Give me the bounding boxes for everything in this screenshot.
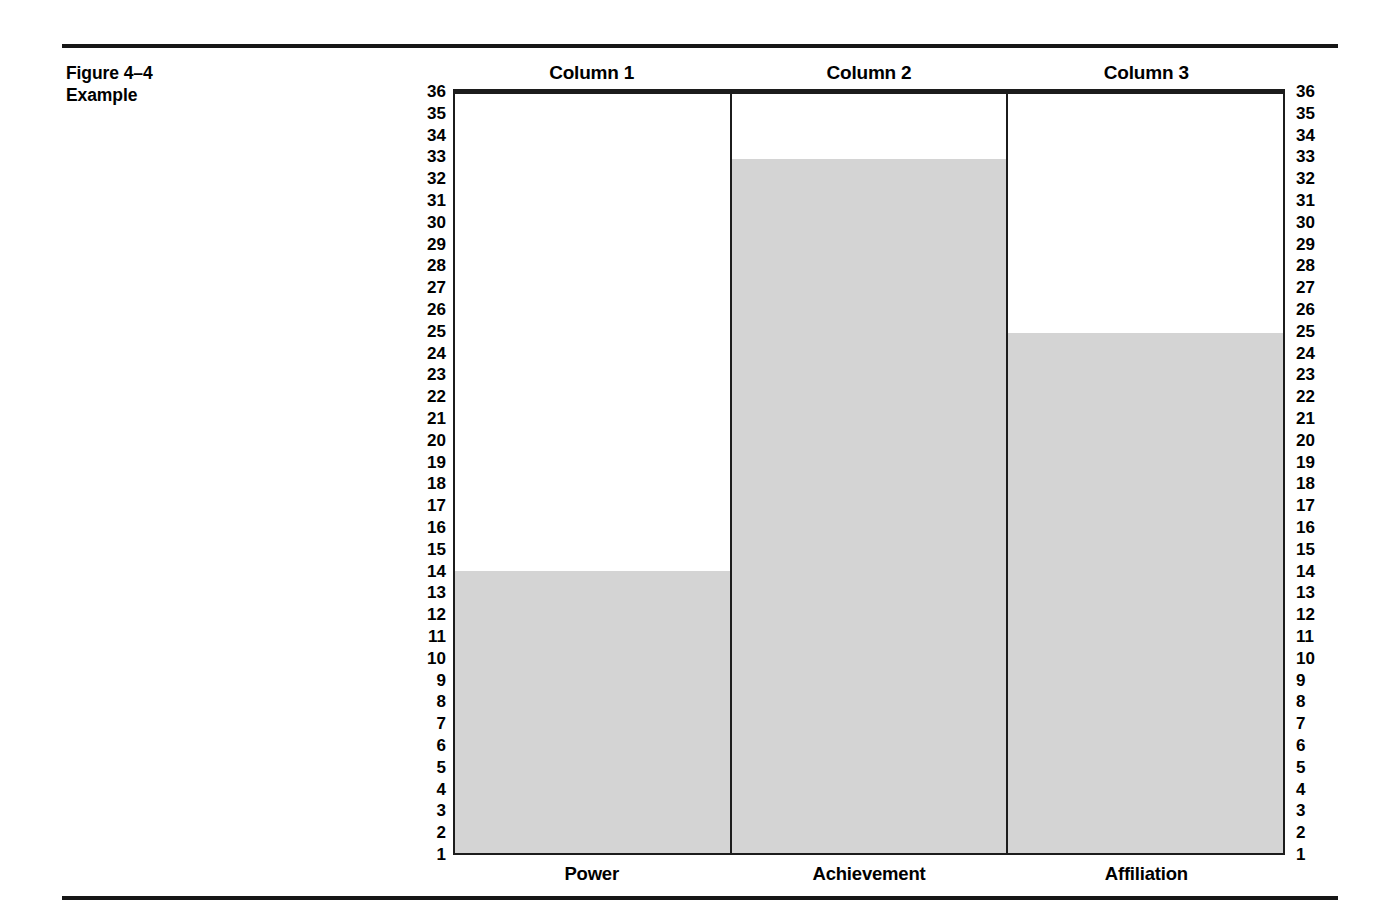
- column-header-row: Column 1Column 2Column 3: [453, 58, 1285, 88]
- y-tick-right-21: 21: [1296, 410, 1342, 429]
- category-label-affiliation: Affiliation: [1008, 858, 1285, 890]
- y-tick-left-33: 33: [400, 148, 446, 167]
- y-tick-right-6: 6: [1296, 737, 1342, 756]
- y-tick-left-23: 23: [400, 366, 446, 385]
- category-label-power: Power: [453, 858, 730, 890]
- y-tick-left-28: 28: [400, 257, 446, 276]
- figure-rule-top: [62, 44, 1338, 48]
- y-tick-right-30: 30: [1296, 213, 1342, 232]
- y-tick-right-36: 36: [1296, 83, 1342, 102]
- y-tick-left-4: 4: [400, 780, 446, 799]
- y-tick-right-9: 9: [1296, 671, 1342, 690]
- y-tick-left-21: 21: [400, 410, 446, 429]
- y-tick-left-10: 10: [400, 649, 446, 668]
- y-tick-right-17: 17: [1296, 497, 1342, 516]
- figure-title: Example: [66, 84, 366, 106]
- y-tick-right-26: 26: [1296, 301, 1342, 320]
- y-tick-left-30: 30: [400, 213, 446, 232]
- y-tick-left-15: 15: [400, 540, 446, 559]
- y-tick-right-31: 31: [1296, 192, 1342, 211]
- y-tick-left-18: 18: [400, 475, 446, 494]
- y-tick-right-27: 27: [1296, 279, 1342, 298]
- bar-cell-achievement: [732, 94, 1009, 853]
- y-tick-right-14: 14: [1296, 562, 1342, 581]
- y-tick-left-16: 16: [400, 519, 446, 538]
- y-tick-left-13: 13: [400, 584, 446, 603]
- bar-chart: Column 1Column 2Column 3: [453, 92, 1285, 855]
- y-tick-right-33: 33: [1296, 148, 1342, 167]
- y-tick-left-8: 8: [400, 693, 446, 712]
- category-label-achievement: Achievement: [730, 858, 1007, 890]
- y-tick-right-4: 4: [1296, 780, 1342, 799]
- y-tick-right-11: 11: [1296, 628, 1342, 647]
- figure-number: Figure 4–4: [66, 62, 366, 84]
- bar-power: [455, 571, 730, 853]
- y-tick-right-1: 1: [1296, 846, 1342, 865]
- y-tick-left-6: 6: [400, 737, 446, 756]
- y-tick-left-7: 7: [400, 715, 446, 734]
- y-tick-left-20: 20: [400, 431, 446, 450]
- y-tick-left-19: 19: [400, 453, 446, 472]
- y-axis-left: 3635343332313029282726252423222120191817…: [400, 92, 446, 855]
- y-tick-right-28: 28: [1296, 257, 1342, 276]
- y-tick-left-2: 2: [400, 824, 446, 843]
- y-tick-right-18: 18: [1296, 475, 1342, 494]
- column-header-1: Column 1: [453, 58, 730, 88]
- figure-rule-bottom: [62, 896, 1338, 900]
- y-tick-right-35: 35: [1296, 104, 1342, 123]
- bar-affiliation: [1008, 333, 1283, 853]
- y-tick-right-20: 20: [1296, 431, 1342, 450]
- y-tick-left-31: 31: [400, 192, 446, 211]
- y-tick-left-29: 29: [400, 235, 446, 254]
- y-tick-right-25: 25: [1296, 322, 1342, 341]
- y-tick-left-3: 3: [400, 802, 446, 821]
- y-tick-right-34: 34: [1296, 126, 1342, 145]
- y-tick-right-7: 7: [1296, 715, 1342, 734]
- y-tick-left-27: 27: [400, 279, 446, 298]
- y-tick-right-19: 19: [1296, 453, 1342, 472]
- column-header-2: Column 2: [730, 58, 1007, 88]
- y-tick-left-1: 1: [400, 846, 446, 865]
- bar-achievement: [732, 159, 1007, 853]
- y-tick-right-13: 13: [1296, 584, 1342, 603]
- y-tick-right-8: 8: [1296, 693, 1342, 712]
- y-tick-left-26: 26: [400, 301, 446, 320]
- y-tick-right-3: 3: [1296, 802, 1342, 821]
- y-tick-right-16: 16: [1296, 519, 1342, 538]
- y-tick-left-35: 35: [400, 104, 446, 123]
- y-tick-left-22: 22: [400, 388, 446, 407]
- category-label-row: PowerAchievementAffiliation: [453, 858, 1285, 890]
- y-tick-right-10: 10: [1296, 649, 1342, 668]
- y-tick-right-32: 32: [1296, 170, 1342, 189]
- y-tick-left-32: 32: [400, 170, 446, 189]
- y-tick-right-22: 22: [1296, 388, 1342, 407]
- y-tick-right-23: 23: [1296, 366, 1342, 385]
- y-tick-left-25: 25: [400, 322, 446, 341]
- y-tick-left-11: 11: [400, 628, 446, 647]
- y-tick-right-24: 24: [1296, 344, 1342, 363]
- y-tick-left-17: 17: [400, 497, 446, 516]
- y-tick-right-5: 5: [1296, 758, 1342, 777]
- y-tick-right-29: 29: [1296, 235, 1342, 254]
- bar-cell-power: [455, 94, 732, 853]
- y-tick-left-9: 9: [400, 671, 446, 690]
- y-tick-left-5: 5: [400, 758, 446, 777]
- y-tick-left-12: 12: [400, 606, 446, 625]
- y-tick-left-14: 14: [400, 562, 446, 581]
- y-axis-right: 3635343332313029282726252423222120191817…: [1296, 92, 1342, 855]
- column-header-3: Column 3: [1008, 58, 1285, 88]
- y-tick-left-34: 34: [400, 126, 446, 145]
- y-tick-right-15: 15: [1296, 540, 1342, 559]
- figure-caption: Figure 4–4 Example: [66, 62, 366, 107]
- plot-area: [453, 92, 1285, 855]
- y-tick-left-24: 24: [400, 344, 446, 363]
- y-tick-right-2: 2: [1296, 824, 1342, 843]
- y-tick-right-12: 12: [1296, 606, 1342, 625]
- y-tick-left-36: 36: [400, 83, 446, 102]
- bar-cell-affiliation: [1008, 94, 1283, 853]
